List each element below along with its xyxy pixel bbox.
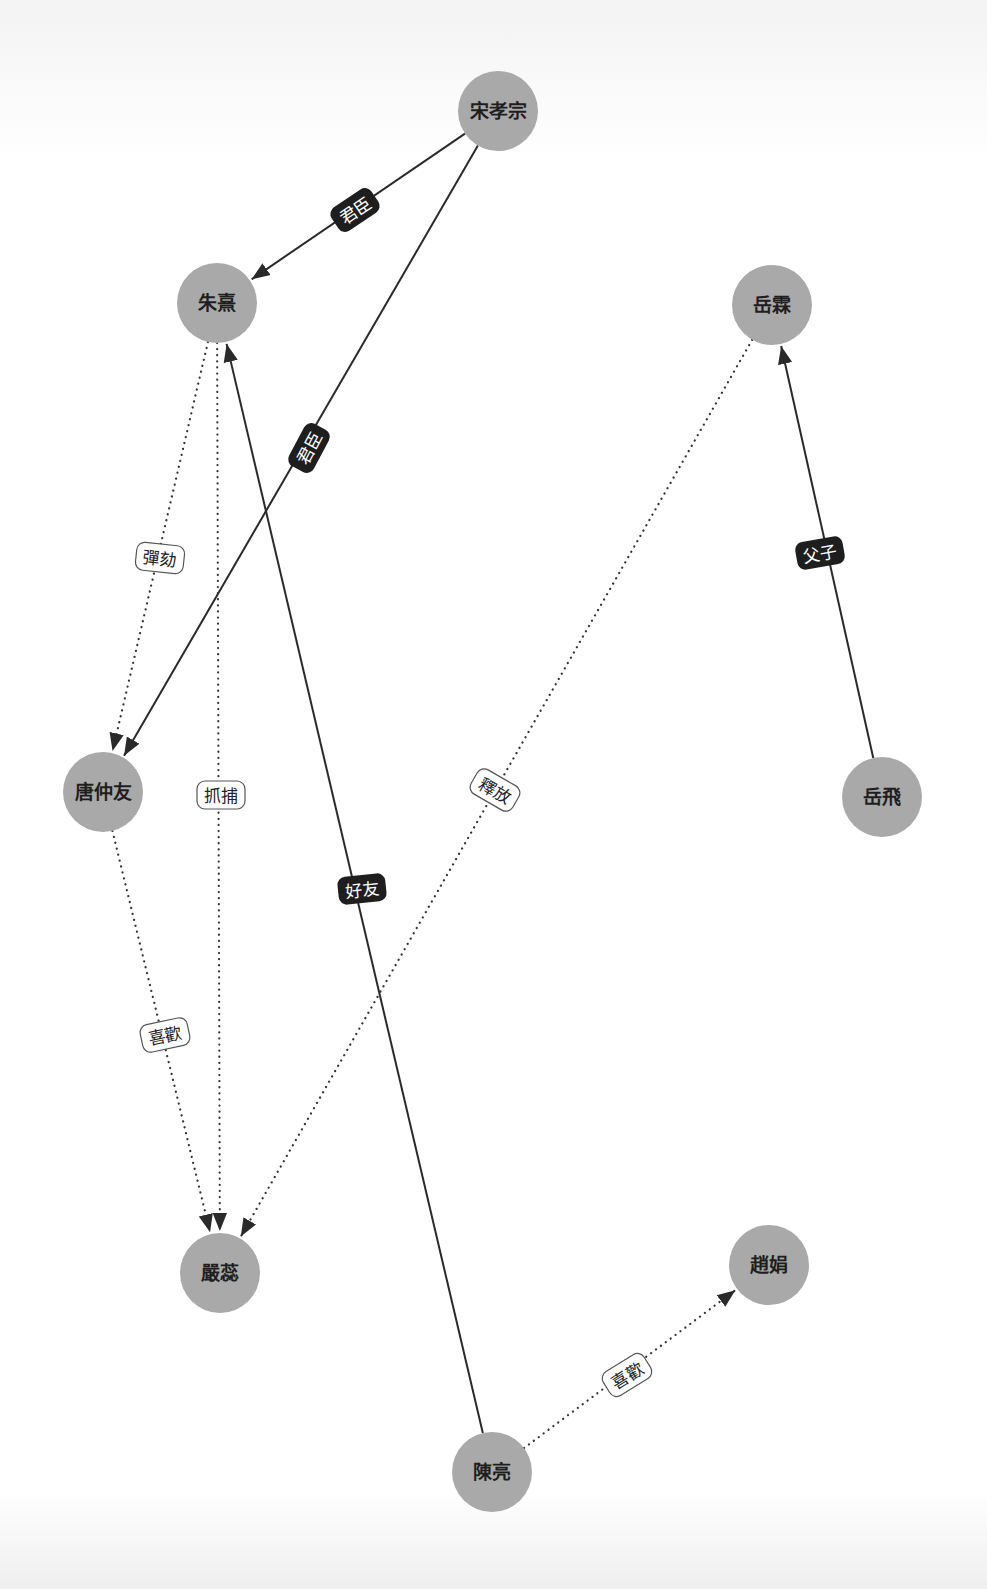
edge-label-text: 彈劾 (142, 547, 178, 570)
node-yuefei[interactable]: 岳飛 (842, 757, 922, 837)
node-tangzhongyou[interactable]: 唐仲友 (63, 752, 143, 832)
node-label: 岳飛 (863, 786, 901, 808)
node-zhaojuan[interactable]: 趙娟 (729, 1225, 809, 1305)
edge-label: 君臣 (327, 185, 382, 235)
edge-label: 好友 (337, 873, 388, 906)
edge-label: 喜歡 (139, 1016, 192, 1053)
edge-label: 父子 (794, 535, 846, 571)
node-label: 趙娟 (750, 1254, 788, 1276)
node-zhuxi[interactable]: 朱熹 (177, 263, 257, 343)
node-label: 宋孝宗 (469, 100, 527, 122)
edge-label-text: 好友 (344, 878, 380, 901)
node-label: 陳亮 (473, 1461, 511, 1483)
edge-label: 彈劾 (135, 542, 186, 575)
relationship-graph: 君臣君臣彈劾抓捕好友父子釋放喜歡喜歡 宋孝宗朱熹岳霖唐仲友岳飛嚴蕊趙娟陳亮 (0, 0, 987, 1589)
node-label: 嚴蕊 (201, 1262, 239, 1284)
node-yanrui[interactable]: 嚴蕊 (180, 1233, 260, 1313)
node-chenliang[interactable]: 陳亮 (452, 1432, 532, 1512)
edge-label: 君臣 (285, 420, 332, 476)
node-label: 朱熹 (198, 292, 236, 314)
node-label: 唐仲友 (75, 781, 132, 803)
edge-label: 抓捕 (197, 781, 245, 809)
edge-labels-layer: 君臣君臣彈劾抓捕好友父子釋放喜歡喜歡 (135, 185, 846, 1400)
edge-label-text: 抓捕 (204, 786, 238, 806)
node-songxiaozong[interactable]: 宋孝宗 (458, 71, 538, 151)
node-yuelin[interactable]: 岳霖 (732, 265, 812, 345)
node-label: 岳霖 (753, 294, 791, 316)
edge-label: 釋放 (467, 766, 523, 814)
